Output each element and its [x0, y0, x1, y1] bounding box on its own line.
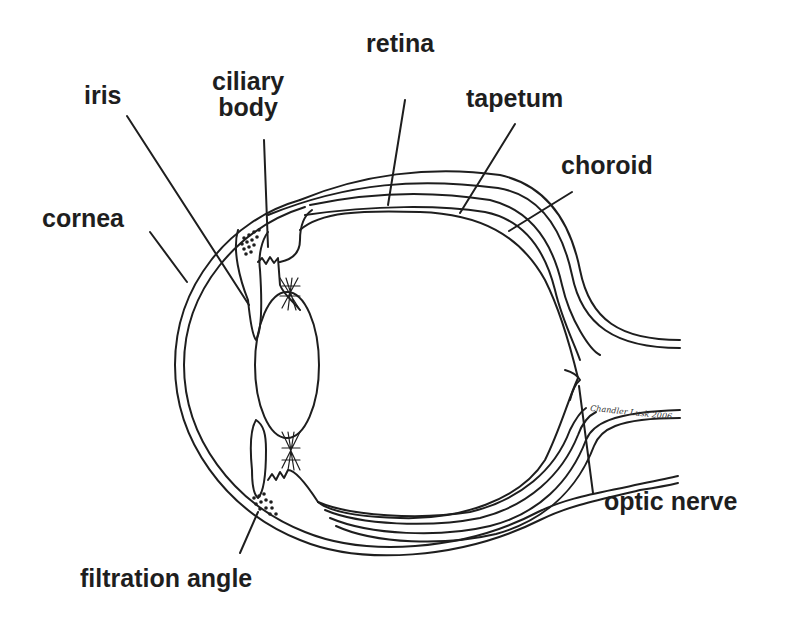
leader-filtration: [240, 512, 258, 553]
lens: [255, 292, 319, 438]
label-ciliary-line2: body: [212, 94, 284, 120]
retina-lower-2: [325, 412, 596, 524]
label-choroid: choroid: [561, 152, 653, 178]
lower-ciliary: [268, 470, 318, 502]
leader-cornea: [150, 232, 187, 282]
label-cornea: cornea: [42, 205, 124, 231]
retina-lower-1: [318, 408, 586, 516]
sclera-upper-2: [268, 183, 680, 348]
upper-zonules: [280, 278, 300, 310]
label-ciliary-line1: ciliary: [212, 68, 284, 94]
label-filtration-angle: filtration angle: [80, 565, 252, 591]
label-tapetum: tapetum: [466, 85, 563, 111]
retina-inner: [300, 211, 578, 518]
leader-iris: [127, 116, 249, 305]
leader-optic-nerve: [579, 386, 593, 493]
upper-iris: [236, 230, 268, 340]
lower-iris: [251, 420, 266, 498]
choroid-layer: [310, 194, 600, 355]
leader-retina: [388, 100, 405, 205]
label-iris: iris: [84, 82, 122, 108]
leader-ciliary: [264, 140, 268, 247]
label-retina: retina: [366, 30, 434, 56]
label-ciliary-body: ciliary body: [212, 68, 284, 121]
label-optic-nerve: optic nerve: [604, 488, 737, 514]
